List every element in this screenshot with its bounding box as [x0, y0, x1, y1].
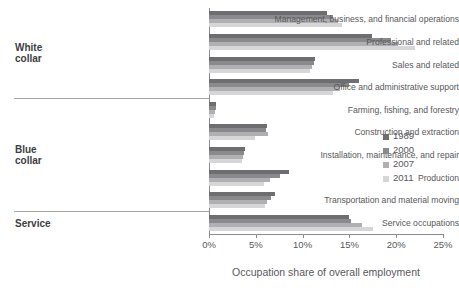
category-label: Professional and related [259, 37, 459, 47]
x-tick-label: 25% [433, 239, 452, 250]
x-tick-0 [209, 234, 210, 238]
category-label: Production [259, 173, 459, 183]
x-tick-label: 0% [202, 239, 216, 250]
legend-label: 2000 [393, 144, 414, 155]
x-axis-title: Occupation share of overall employment [209, 266, 443, 278]
category-label: Office and administrative support [259, 82, 459, 92]
legend-swatch-icon [383, 134, 389, 140]
group-divider [14, 98, 209, 99]
bar [209, 204, 265, 208]
collar-group-label: White collar [15, 42, 42, 64]
x-tick-20 [396, 234, 397, 238]
legend-label: 1989 [393, 130, 414, 141]
legend-label: 2011 [393, 172, 413, 183]
x-tick-15 [349, 234, 350, 238]
bar [209, 182, 264, 186]
legend-swatch-icon [383, 162, 389, 168]
category-label: Transportation and material moving [259, 195, 459, 205]
category-label: Installation, maintenance, and repair [259, 150, 459, 160]
bar [209, 159, 242, 163]
legend-label: 2007 [393, 158, 414, 169]
collar-group-label: Blue collar [15, 144, 42, 166]
bar [209, 136, 255, 140]
occupation-share-bar-chart: 0%5%10%15%20%25% Management, business, a… [0, 0, 459, 294]
legend-swatch-icon [383, 176, 389, 182]
x-tick-label: 20% [387, 239, 406, 250]
x-axis-line [209, 234, 443, 235]
category-label-column [0, 0, 205, 226]
category-label: Sales and related [259, 60, 459, 70]
category-label: Construction and extraction [259, 127, 459, 137]
bar [209, 114, 214, 118]
category-label: Farming, fishing, and forestry [259, 105, 459, 115]
category-label: Management, business, and financial oper… [259, 14, 459, 24]
legend-swatch-icon [383, 148, 389, 154]
x-tick-25 [443, 234, 444, 238]
x-tick-label: 10% [293, 239, 312, 250]
category-label: Service occupations [259, 218, 459, 228]
x-tick-5 [256, 234, 257, 238]
group-divider [14, 211, 209, 212]
collar-group-label: Service [15, 217, 51, 228]
x-tick-label: 15% [340, 239, 359, 250]
x-tick-10 [303, 234, 304, 238]
x-tick-label: 5% [249, 239, 263, 250]
